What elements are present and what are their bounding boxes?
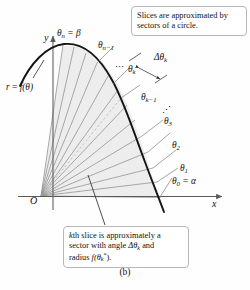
y-axis-label: y bbox=[44, 32, 48, 43]
shaded-region bbox=[41, 46, 160, 197]
label-theta-0: θ0 = α bbox=[172, 176, 196, 187]
label-theta-n: θn = β bbox=[57, 28, 81, 39]
label-delta-theta-k: Δθk bbox=[154, 52, 167, 63]
callout-top: Slices are approximated by sectors of a … bbox=[131, 6, 247, 36]
x-axis-label: x bbox=[212, 198, 216, 209]
label-theta-3: θ3 bbox=[164, 116, 172, 127]
ellipsis-lower: ⋰ bbox=[162, 105, 171, 115]
callout-top-text: Slices are approximated by sectors of a … bbox=[137, 11, 228, 30]
label-theta-n-minus-1: θn−1 bbox=[98, 40, 114, 51]
callout-bottom-line-1: kkth slice is approximately ath slice is… bbox=[69, 231, 184, 241]
label-theta-2: θ2 bbox=[172, 140, 180, 151]
figure-canvas: y x O r = f(θ) θn = β θn−1 ⋯ θk Δθk θk−1… bbox=[0, 0, 250, 290]
label-theta-1: θ1 bbox=[180, 163, 188, 174]
curve-equation-label: r = f(θ) bbox=[6, 82, 33, 92]
callout-bottom-line-2: sector with angle Δθk and bbox=[69, 241, 184, 252]
callout-bottom: kkth slice is approximately ath slice is… bbox=[63, 226, 189, 268]
label-theta-k-minus-1: θk−1 bbox=[141, 92, 157, 103]
origin-label: O bbox=[30, 195, 37, 206]
ellipsis-upper: ⋯ bbox=[115, 62, 125, 72]
label-theta-k: θk bbox=[128, 64, 136, 75]
figure-caption: (b) bbox=[0, 267, 250, 277]
callout-bottom-line-3: radius f(θk*). bbox=[69, 252, 184, 264]
